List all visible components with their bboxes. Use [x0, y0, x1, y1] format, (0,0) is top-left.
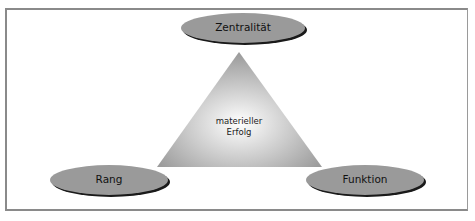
node-label-funktion: Funktion — [306, 173, 424, 185]
center-label-line1: materieller — [199, 116, 279, 127]
center-label: materieller Erfolg — [199, 116, 279, 138]
center-label-line2: Erfolg — [199, 127, 279, 138]
triangle — [157, 52, 322, 167]
diagram-graphics — [0, 0, 475, 221]
node-label-zentralitaet: Zentralität — [183, 21, 303, 33]
node-label-rang: Rang — [50, 173, 168, 185]
